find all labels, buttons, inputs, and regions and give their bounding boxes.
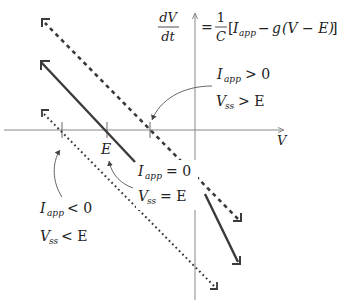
equation: dV dt = 1 C [ I app − g (V − E) ]: [158, 10, 337, 44]
svg-text:I: I: [39, 200, 46, 216]
annotation-zero: I app = 0 V ss = E: [136, 160, 198, 210]
arrowhead-top-dotted-icon: [42, 110, 49, 117]
svg-text:app: app: [145, 171, 162, 181]
svg-text:app: app: [239, 28, 256, 38]
svg-text:I: I: [232, 20, 239, 36]
pointer-zero-icon: [109, 161, 133, 188]
x-axis-label: V: [277, 133, 288, 148]
annotation-negative: I app < 0 V ss < E: [36, 200, 96, 266]
svg-text:= E: = E: [160, 188, 186, 204]
svg-text:g: g: [272, 20, 281, 36]
svg-text:> 0: > 0: [245, 66, 270, 82]
svg-text:I: I: [216, 66, 223, 82]
pointer-positive-icon: [152, 86, 212, 120]
svg-text:dt: dt: [161, 29, 175, 44]
annotation-positive: I app > 0 V ss > E: [214, 62, 276, 116]
svg-text:I: I: [137, 163, 144, 179]
svg-text:ss: ss: [225, 101, 235, 111]
tick-label-E: E: [100, 141, 111, 157]
svg-text:app: app: [47, 208, 64, 218]
line-iapp-zero-lower: [205, 194, 238, 262]
svg-text:−: −: [258, 20, 270, 36]
svg-text:=: =: [201, 19, 213, 35]
svg-text:]: ]: [332, 20, 337, 36]
line-iapp-zero-upper: [41, 62, 135, 162]
svg-text:> E: > E: [238, 93, 264, 109]
svg-text:< E: < E: [61, 228, 87, 244]
svg-text:= 0: = 0: [166, 163, 191, 179]
svg-text:app: app: [224, 74, 241, 84]
svg-text:< 0: < 0: [67, 200, 92, 216]
pointer-negative-icon: [54, 150, 62, 197]
svg-text:(V − E): (V − E): [282, 20, 334, 36]
svg-text:ss: ss: [49, 236, 59, 246]
svg-text:C: C: [216, 29, 226, 44]
svg-text:dV: dV: [159, 10, 178, 25]
phase-diagram: dV dt = 1 C [ I app − g (V − E) ] V E I …: [0, 0, 342, 304]
svg-text:ss: ss: [147, 196, 157, 206]
svg-text:1: 1: [217, 10, 225, 25]
